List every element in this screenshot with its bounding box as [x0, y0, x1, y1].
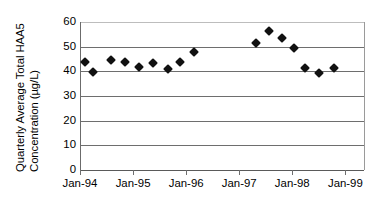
- gridline: [81, 22, 364, 23]
- x-axis-tick-labels: Jan-94Jan-95Jan-96Jan-97Jan-98Jan-99: [0, 177, 379, 193]
- y-axis-title: Quarterly Average Total HAA5 Concentrati…: [0, 0, 46, 180]
- gridline: [81, 96, 364, 97]
- data-point: [189, 47, 199, 57]
- x-tick-mark: [186, 170, 187, 175]
- data-point: [148, 58, 158, 68]
- x-tick-label: Jan-99: [328, 177, 363, 189]
- gridline: [81, 121, 364, 122]
- x-tick-mark: [345, 170, 346, 175]
- x-tick-mark: [292, 170, 293, 175]
- data-point: [120, 58, 130, 68]
- data-point: [175, 58, 185, 68]
- x-axis-ticks: [80, 170, 365, 176]
- y-tick-label: 40: [63, 65, 76, 76]
- y-tick-label: 20: [63, 115, 76, 126]
- x-tick-label: Jan-95: [116, 177, 151, 189]
- haa5-scatter-chart: Quarterly Average Total HAA5 Concentrati…: [0, 0, 379, 206]
- y-tick-label: 30: [63, 90, 76, 101]
- y-axis-title-line-1: Quarterly Average Total HAA5: [14, 23, 28, 172]
- data-point: [80, 58, 90, 68]
- y-tick-label: 60: [63, 16, 76, 27]
- x-tick-label: Jan-96: [169, 177, 204, 189]
- y-axis-tick-labels: 0102030405060: [52, 0, 76, 206]
- data-point: [314, 68, 324, 78]
- x-tick-mark: [239, 170, 240, 175]
- x-tick-label: Jan-98: [275, 177, 310, 189]
- data-point: [264, 26, 274, 36]
- data-point: [88, 67, 98, 77]
- y-tick-label: 10: [63, 139, 76, 150]
- x-tick-label: Jan-97: [222, 177, 257, 189]
- y-tick-label: 0: [70, 164, 76, 175]
- data-point: [277, 33, 287, 43]
- plot-area: [80, 22, 365, 170]
- y-axis-title-line-2: Concentration (µg/L): [28, 70, 42, 172]
- gridline: [81, 145, 364, 146]
- data-point: [106, 55, 116, 65]
- x-tick-mark: [133, 170, 134, 175]
- x-tick-mark: [80, 170, 81, 175]
- x-tick-label: Jan-94: [63, 177, 98, 189]
- data-point: [289, 43, 299, 53]
- gridline: [81, 47, 364, 48]
- y-tick-label: 50: [63, 41, 76, 52]
- data-point: [163, 64, 173, 74]
